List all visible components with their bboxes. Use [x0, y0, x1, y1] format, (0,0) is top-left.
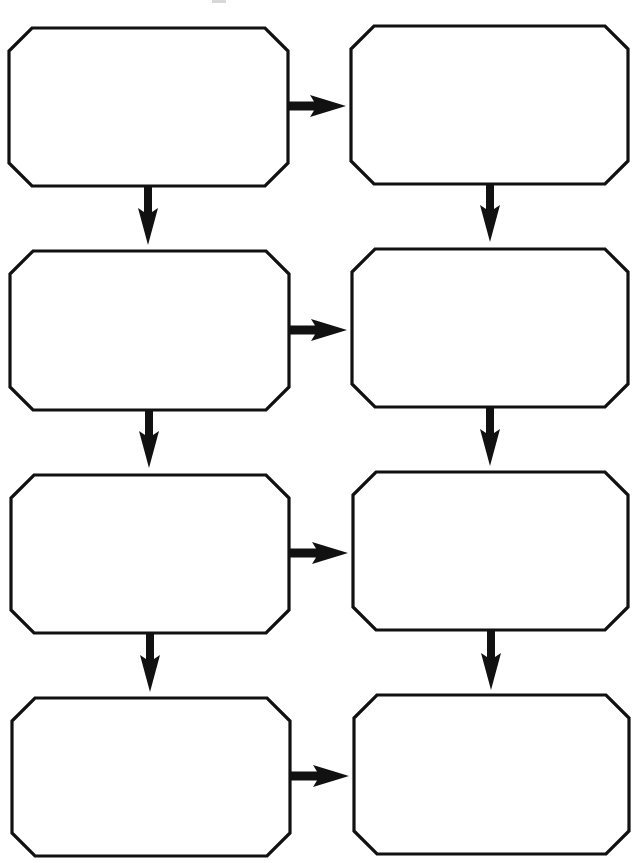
cropped-header-mark: [212, 0, 226, 3]
arrow-right-icon: [289, 542, 348, 564]
arrow-down-icon: [138, 186, 158, 245]
arrow-right-icon: [290, 765, 349, 787]
box-outline: [354, 695, 629, 854]
arrow-down-icon: [480, 184, 500, 242]
flow-box-1[interactable]: [9, 28, 288, 186]
arrow-down-icon: [140, 633, 160, 692]
arrow-right-icon: [289, 319, 347, 341]
arrow-down-icon: [480, 407, 500, 466]
arrow-down-icon: [139, 410, 159, 468]
box-outline: [351, 26, 628, 184]
flow-box-7[interactable]: [12, 698, 290, 856]
box-outline: [353, 472, 628, 630]
box-outline: [11, 475, 289, 633]
arrow-right-icon: [288, 95, 346, 117]
arrow-down-icon: [481, 630, 501, 690]
box-outline: [12, 698, 290, 856]
arrows-layer: [138, 95, 501, 787]
boxes-layer: [9, 26, 629, 856]
flow-box-6[interactable]: [353, 472, 628, 630]
flow-box-4[interactable]: [352, 249, 628, 407]
box-outline: [10, 251, 289, 410]
flow-box-5[interactable]: [11, 475, 289, 633]
box-outline: [352, 249, 628, 407]
flow-box-3[interactable]: [10, 251, 289, 410]
flow-box-2[interactable]: [351, 26, 628, 184]
box-outline: [9, 28, 288, 186]
flowchart-diagram: [0, 0, 640, 863]
flow-box-8[interactable]: [354, 695, 629, 854]
